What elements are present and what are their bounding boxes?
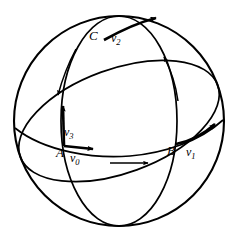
sphere-diagram-canvas xyxy=(0,0,242,239)
vector-label-v0-sub: 0 xyxy=(75,157,79,167)
sphere-diagram: A B C v0 v1 v2 v3 xyxy=(0,0,242,239)
vector-label-v0: v0 xyxy=(70,152,80,167)
meridian-great-circle xyxy=(61,16,177,226)
vector-v1-arrow xyxy=(176,124,215,144)
point-label-A: A xyxy=(56,146,64,159)
vector-label-v3-sub: 3 xyxy=(69,131,73,141)
vector-label-v3: v3 xyxy=(64,126,74,141)
vector-label-v2: v2 xyxy=(111,32,121,47)
sphere-outline-circle xyxy=(14,16,224,226)
vector-label-v2-sub: 2 xyxy=(116,37,120,47)
tilted-great-circle xyxy=(3,36,236,206)
vector-v0-arrow xyxy=(64,146,93,149)
vector-label-v1: v1 xyxy=(186,146,196,161)
point-label-B: B xyxy=(167,144,175,157)
vector-label-v1-sub: 1 xyxy=(191,151,195,161)
point-label-C: C xyxy=(89,29,98,42)
